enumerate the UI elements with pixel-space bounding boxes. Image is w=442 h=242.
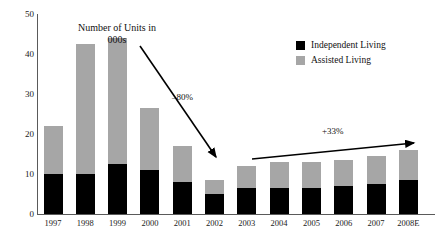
bar-segment-assisted-living-2001[interactable] — [173, 146, 192, 182]
bar-group-2006[interactable] — [334, 160, 353, 214]
bar-segment-assisted-living-2003[interactable] — [237, 166, 256, 188]
bar-segment-assisted-living-2002[interactable] — [205, 180, 224, 194]
y-axis-line — [37, 14, 38, 215]
bar-group-2005[interactable] — [302, 162, 321, 214]
legend-swatch-icon-assisted-living — [296, 56, 305, 65]
bar-segment-assisted-living-2007[interactable] — [367, 156, 386, 184]
x-tick-2008E: 2008E — [388, 218, 428, 228]
bar-group-1999[interactable] — [108, 38, 127, 214]
bar-group-2003[interactable] — [237, 166, 256, 214]
chart-container: 50 40 30 20 10 0 19971998199920002001200… — [0, 0, 442, 242]
chart-legend: Independent Living Assisted Living — [296, 40, 386, 70]
bar-segment-assisted-living-2004[interactable] — [270, 162, 289, 188]
legend-label-assisted-living: Assisted Living — [311, 55, 371, 65]
bar-segment-assisted-living-1997[interactable] — [44, 126, 63, 174]
bar-group-2007[interactable] — [367, 156, 386, 214]
legend-swatch-icon-independent-living — [296, 41, 305, 50]
bar-segment-assisted-living-2005[interactable] — [302, 162, 321, 188]
bar-group-1998[interactable] — [76, 44, 95, 214]
x-axis-line — [37, 214, 435, 215]
legend-item-assisted-living: Assisted Living — [296, 55, 386, 65]
y-tick-30: 30 — [4, 90, 34, 99]
bar-segment-independent-living-2000[interactable] — [140, 170, 159, 214]
bar-group-2001[interactable] — [173, 146, 192, 214]
y-tick-50: 50 — [4, 10, 34, 19]
bar-group-2008E[interactable] — [399, 150, 418, 214]
chart-title-line2: 000s — [52, 34, 182, 46]
bar-segment-independent-living-2001[interactable] — [173, 182, 192, 214]
bar-segment-assisted-living-1998[interactable] — [76, 44, 95, 174]
bar-segment-independent-living-2004[interactable] — [270, 188, 289, 214]
y-tick-20: 20 — [4, 130, 34, 139]
legend-item-independent-living: Independent Living — [296, 40, 386, 50]
bar-segment-independent-living-1997[interactable] — [44, 174, 63, 214]
chart-title: Number of Units in 000s — [52, 22, 182, 46]
y-tick-10: 10 — [4, 170, 34, 179]
bar-group-2002[interactable] — [205, 180, 224, 214]
y-axis-ticks: 50 40 30 20 10 0 — [0, 0, 34, 242]
bar-segment-independent-living-1999[interactable] — [108, 164, 127, 214]
chart-title-line1: Number of Units in — [52, 22, 182, 34]
legend-label-independent-living: Independent Living — [311, 40, 386, 50]
bar-segment-assisted-living-2008E[interactable] — [399, 150, 418, 180]
bar-segment-independent-living-2006[interactable] — [334, 186, 353, 214]
bar-segment-assisted-living-2000[interactable] — [140, 108, 159, 170]
bar-segment-independent-living-1998[interactable] — [76, 174, 95, 214]
bar-segment-independent-living-2003[interactable] — [237, 188, 256, 214]
y-tick-0: 0 — [4, 210, 34, 219]
bar-group-2004[interactable] — [270, 162, 289, 214]
bar-segment-independent-living-2002[interactable] — [205, 194, 224, 214]
bar-segment-independent-living-2005[interactable] — [302, 188, 321, 214]
bar-segment-independent-living-2008E[interactable] — [399, 180, 418, 214]
bar-segment-independent-living-2007[interactable] — [367, 184, 386, 214]
y-tick-40: 40 — [4, 50, 34, 59]
bar-segment-assisted-living-2006[interactable] — [334, 160, 353, 186]
bar-segment-assisted-living-1999[interactable] — [108, 38, 127, 164]
bar-group-1997[interactable] — [44, 126, 63, 214]
bar-group-2000[interactable] — [140, 108, 159, 214]
